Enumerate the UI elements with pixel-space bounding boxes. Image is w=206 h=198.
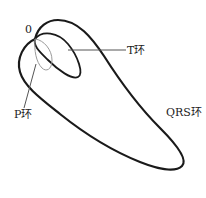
origin-label: 0 xyxy=(25,24,32,35)
qrs-loop-label: QRS环 xyxy=(166,107,202,118)
p-loop-leader xyxy=(24,64,36,108)
t-loop-label: T环 xyxy=(127,45,145,56)
p-loop-label: P环 xyxy=(14,109,32,120)
t-loop xyxy=(35,33,81,77)
